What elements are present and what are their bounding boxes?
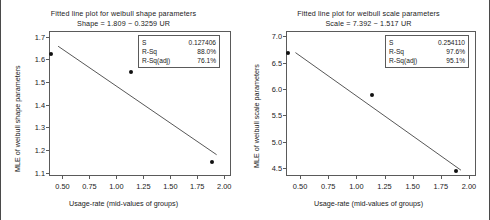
- chart-title-line2: Shape = 1.809 − 0.3259 UR: [1, 19, 246, 28]
- y-tick-mark: [283, 36, 286, 37]
- x-tick-label: 2.00: [217, 182, 231, 191]
- y-tick-label: 6.0: [260, 85, 282, 94]
- data-point: [210, 160, 214, 164]
- y-tick-mark: [283, 115, 286, 116]
- x-tick-mark: [116, 176, 117, 179]
- stats-row: S 0.127406: [142, 38, 216, 47]
- stats-value: 76.1%: [197, 56, 216, 65]
- stats-key: R-Sq(adj): [142, 56, 174, 65]
- y-tick-label: 1.7: [23, 32, 45, 41]
- y-tick-label: 6.5: [260, 58, 282, 67]
- x-tick-label: 0.75: [321, 182, 335, 191]
- x-tick-label: 0.50: [55, 182, 69, 191]
- x-tick-mark: [197, 176, 198, 179]
- stats-row: R-Sq(adj) 95.1%: [389, 56, 465, 65]
- x-tick-label: 2.00: [462, 182, 476, 191]
- y-tick-label: 4.5: [260, 164, 282, 173]
- y-tick-label: 1.3: [23, 123, 45, 132]
- data-point: [129, 70, 133, 74]
- statistics-box: S 0.127406 R-Sq 88.0% R-Sq(adj) 76.1%: [138, 35, 220, 68]
- stats-value: 95.1%: [446, 56, 465, 65]
- y-tick-mark: [283, 63, 286, 64]
- y-tick-label: 1.5: [23, 77, 45, 86]
- x-tick-mark: [441, 176, 442, 179]
- x-tick-mark: [385, 176, 386, 179]
- x-tick-mark: [89, 176, 90, 179]
- y-tick-label: 1.1: [23, 168, 45, 177]
- chart-title-line1: Fitted line plot for weibull shape param…: [1, 9, 246, 18]
- y-tick-mark: [46, 173, 49, 174]
- x-tick-mark: [62, 176, 63, 179]
- y-tick-mark: [283, 168, 286, 169]
- chart-title-line2: Scale = 7.392 − 1.517 UR: [246, 19, 490, 28]
- figure-container: Fitted line plot for weibull shape param…: [0, 0, 490, 220]
- stats-value: 88.0%: [197, 47, 216, 56]
- plot-area: S 0.254110 R-Sq 97.6% R-Sq(adj) 95.1%: [286, 31, 476, 176]
- stats-key: R-Sq: [389, 47, 408, 56]
- y-tick-mark: [283, 89, 286, 90]
- x-tick-label: 1.50: [163, 182, 177, 191]
- stats-row: R-Sq 88.0%: [142, 47, 216, 56]
- data-point: [370, 93, 374, 97]
- x-tick-label: 1.75: [190, 182, 204, 191]
- stats-value: 0.127406: [188, 38, 216, 47]
- statistics-box: S 0.254110 R-Sq 97.6% R-Sq(adj) 95.1%: [385, 35, 469, 68]
- y-tick-label: 1.6: [23, 55, 45, 64]
- x-tick-label: 1.00: [349, 182, 363, 191]
- x-axis-label: Usage-rate (mid-values of groups): [1, 199, 246, 208]
- x-tick-label: 0.75: [82, 182, 96, 191]
- y-tick-mark: [46, 59, 49, 60]
- chart-panel-weibull-shape: Fitted line plot for weibull shape param…: [1, 0, 246, 220]
- x-axis-label: Usage-rate (mid-values of groups): [246, 199, 490, 208]
- x-tick-label: 1.00: [109, 182, 123, 191]
- x-tick-label: 1.25: [377, 182, 391, 191]
- x-tick-label: 1.75: [434, 182, 448, 191]
- data-point: [49, 52, 53, 56]
- y-tick-mark: [46, 37, 49, 38]
- x-tick-label: 1.25: [136, 182, 150, 191]
- stats-key: S: [142, 38, 150, 47]
- y-tick-label: 7.0: [260, 32, 282, 41]
- chart-panel-weibull-scale: Fitted line plot for weibull scale param…: [246, 0, 490, 220]
- y-tick-mark: [46, 105, 49, 106]
- stats-row: S 0.254110: [389, 38, 465, 47]
- x-tick-mark: [469, 176, 470, 179]
- x-tick-label: 1.50: [405, 182, 419, 191]
- stats-key: S: [389, 38, 397, 47]
- plot-area: S 0.127406 R-Sq 88.0% R-Sq(adj) 76.1%: [49, 31, 231, 176]
- stats-row: R-Sq(adj) 76.1%: [142, 56, 216, 65]
- stats-key: R-Sq(adj): [389, 56, 421, 65]
- y-tick-mark: [46, 150, 49, 151]
- y-tick-label: 5.5: [260, 111, 282, 120]
- y-tick-mark: [46, 82, 49, 83]
- x-tick-mark: [356, 176, 357, 179]
- y-tick-label: 5.0: [260, 137, 282, 146]
- y-tick-mark: [46, 127, 49, 128]
- y-tick-mark: [283, 142, 286, 143]
- x-tick-mark: [300, 176, 301, 179]
- y-tick-label: 1.4: [23, 100, 45, 109]
- x-tick-mark: [170, 176, 171, 179]
- stats-key: R-Sq: [142, 47, 161, 56]
- stats-row: R-Sq 97.6%: [389, 47, 465, 56]
- stats-value: 0.254110: [438, 38, 465, 47]
- data-point: [286, 51, 290, 55]
- x-tick-mark: [143, 176, 144, 179]
- x-tick-mark: [413, 176, 414, 179]
- x-tick-label: 0.50: [293, 182, 307, 191]
- y-axis-label: MLE of weibull shape parameters: [13, 65, 22, 172]
- stats-value: 97.6%: [446, 47, 465, 56]
- x-tick-mark: [328, 176, 329, 179]
- data-point: [454, 169, 458, 173]
- chart-title-line1: Fitted line plot for weibull scale param…: [246, 9, 490, 18]
- x-tick-mark: [224, 176, 225, 179]
- y-tick-label: 1.2: [23, 145, 45, 154]
